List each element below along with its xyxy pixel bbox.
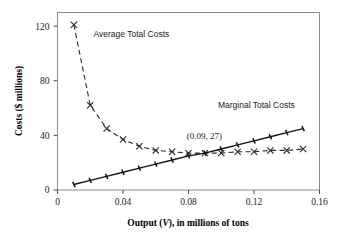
- series-annotation: Marginal Total Costs: [218, 100, 295, 110]
- y-axis-title: Costs ($ millions): [14, 66, 25, 136]
- y-axis: 04080120 Costs ($ millions): [14, 22, 58, 196]
- data-point-marker: [136, 143, 142, 149]
- x-tick-labels: 00.040.080.120.16: [55, 197, 328, 207]
- y-tick-label: 0: [45, 185, 50, 195]
- series-annotation: Average Total Costs: [94, 29, 170, 39]
- x-tick-label: 0: [55, 197, 60, 207]
- y-tick-labels: 04080120: [35, 22, 50, 196]
- x-tick-label: 0.16: [311, 197, 328, 207]
- y-tick-label: 120: [35, 22, 50, 32]
- x-axis-title-prefix: Output (: [127, 218, 162, 229]
- x-axis-title: Output (V), in millions of tons: [127, 218, 249, 229]
- x-axis-title-suffix: ), in millions of tons: [169, 218, 249, 229]
- x-tickmarks: [58, 190, 320, 194]
- x-tick-label: 0.08: [180, 197, 197, 207]
- y-tick-label: 40: [40, 131, 50, 141]
- data-point-marker: [120, 136, 126, 142]
- point-annotation: (0.09, 27): [187, 131, 222, 141]
- chart-figure: 04080120 Costs ($ millions) 00.040.080.1…: [0, 0, 341, 236]
- x-axis: 00.040.080.120.16 Output (V), in million…: [55, 190, 328, 229]
- data-point-marker: [104, 125, 110, 131]
- x-tick-label: 0.12: [246, 197, 263, 207]
- y-tick-label: 80: [40, 76, 50, 86]
- chart-svg: 04080120 Costs ($ millions) 00.040.080.1…: [0, 0, 341, 236]
- y-tickmarks: [54, 26, 58, 190]
- x-tick-label: 0.04: [115, 197, 132, 207]
- chart-annotations: Average Total CostsMarginal Total Costs(…: [94, 29, 295, 141]
